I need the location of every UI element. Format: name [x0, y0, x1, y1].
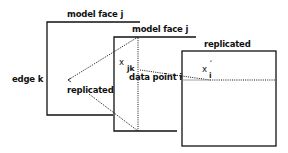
label-model-face-j-1: model face j — [67, 10, 123, 19]
symbol-x-i: x — [202, 65, 207, 74]
label-replicated-face: replicated — [204, 40, 251, 49]
reflection-line-upper — [68, 37, 138, 80]
label-model-face-j-2: model face j — [132, 25, 188, 34]
label-data-point-i: data point i — [129, 73, 182, 82]
symbol-x-jk: x — [119, 58, 124, 67]
label-replicated-point: replicated — [67, 86, 114, 95]
replicated-face-outline — [182, 51, 276, 146]
symbol-x-i-subscript: i — [209, 72, 212, 80]
symbol-x-i-prime: ′ — [210, 60, 212, 68]
replicated-point-mark — [68, 78, 71, 82]
symbol-x-jk-subscript: jk — [127, 65, 135, 73]
label-edge-k: edge k — [12, 75, 43, 84]
